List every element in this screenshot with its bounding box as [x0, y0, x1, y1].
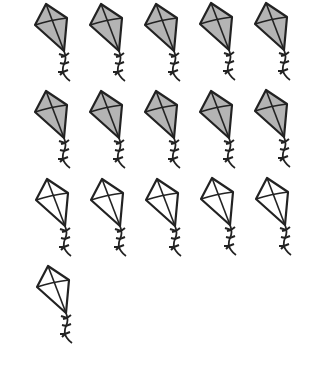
kite-icon-shaded	[142, 88, 182, 170]
kite-icon-unshaded	[198, 175, 238, 257]
kite-icon-shaded	[87, 1, 127, 83]
kite-icon-shaded	[142, 1, 182, 83]
kite-icon-shaded	[252, 0, 292, 82]
kite-icon-shaded	[32, 1, 72, 83]
kite-icon-shaded	[197, 0, 237, 82]
kite-icon-shaded	[197, 88, 237, 170]
kite-icon-unshaded	[253, 175, 293, 257]
kite-icon-shaded	[87, 88, 127, 170]
kite-icon-unshaded	[34, 263, 74, 345]
kite-icon-shaded	[32, 88, 72, 170]
kite-icon-shaded	[252, 87, 292, 169]
kite-icon-unshaded	[33, 176, 73, 258]
kite-icon-unshaded	[88, 176, 128, 258]
kite-icon-unshaded	[143, 176, 183, 258]
